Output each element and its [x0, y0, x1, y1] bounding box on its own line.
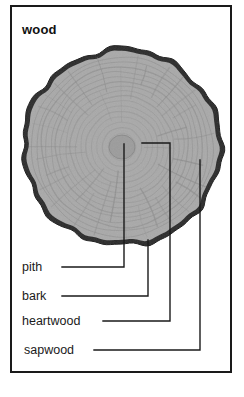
wood-grain-texture: [0, 0, 244, 397]
label-bark: bark: [22, 289, 46, 303]
figure-page: wood pith bark: [0, 0, 244, 397]
leader-line-bark: [62, 240, 148, 296]
label-sapwood: sapwood: [24, 343, 74, 357]
label-pith: pith: [22, 260, 42, 274]
wood-cross-section-diagram: [0, 0, 244, 397]
label-heartwood: heartwood: [22, 314, 80, 328]
